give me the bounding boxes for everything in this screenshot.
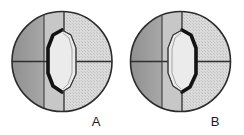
cross-section-diagram: A B [0, 0, 244, 135]
figure-container: A B [0, 0, 244, 135]
panel-b-central-lens [168, 30, 196, 92]
panel-a-central-lens [48, 30, 76, 92]
panel-b-label: B [211, 114, 220, 129]
panel-b: B [128, 9, 234, 129]
panel-a: A [10, 9, 114, 129]
panel-a-label: A [92, 114, 101, 129]
